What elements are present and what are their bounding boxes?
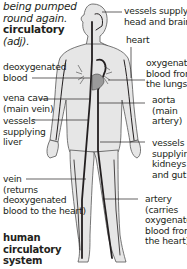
label-vena-cava: vena cava (main vein) <box>3 93 53 114</box>
label-head-vessels: vessels supplying head and brain <box>124 6 187 27</box>
label-kidney-vessels: vessels supplying kidneys and gut <box>152 138 187 180</box>
derived-headword: circulatory <box>3 24 64 35</box>
left-hand <box>47 140 58 158</box>
figure-title: human circulatory system <box>3 232 61 267</box>
label-artery: artery (carries oxygenated blood from th… <box>145 194 187 247</box>
label-oxygenated-blood: oxygenated blood from the lungs <box>146 58 187 90</box>
label-deoxygenated-blood: deoxygenated blood <box>3 62 66 83</box>
label-heart: heart <box>126 35 150 46</box>
right-hand <box>130 140 141 158</box>
label-vein: vein (returns deoxygenated blood to the … <box>3 174 86 216</box>
head <box>81 4 108 46</box>
label-liver-vessels: vessels supplying liver <box>3 116 46 148</box>
definition-text: being pumped round again. <box>3 0 77 24</box>
label-aorta: aorta (main artery) <box>152 95 182 127</box>
part-of-speech: (adj). <box>3 36 29 47</box>
